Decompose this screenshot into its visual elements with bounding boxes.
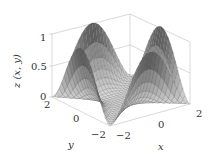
- x-axis-label: x: [158, 141, 164, 152]
- surface-mesh: [52, 23, 190, 126]
- x-tick-neg2: −2: [116, 130, 131, 141]
- z-tick-0.5: 0.5: [31, 61, 47, 72]
- z-axis-label: z (x, y): [11, 54, 22, 89]
- x-tick-2: 2: [196, 108, 202, 119]
- y-tick-0: 0: [73, 113, 79, 124]
- z-tick-1: 1: [40, 32, 46, 43]
- surface-plot: 1 0.5 0 2 0 −2 −2 0 2 y x z (x, y): [0, 0, 216, 161]
- y-tick-neg2: −2: [91, 129, 106, 140]
- y-axis-label: y: [67, 139, 74, 150]
- y-tick-2: 2: [44, 99, 50, 110]
- x-tick-0: 0: [158, 119, 164, 130]
